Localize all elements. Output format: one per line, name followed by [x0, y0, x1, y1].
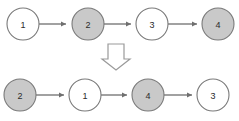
node-label: 3 — [210, 91, 215, 101]
node-before-3[interactable]: 4 — [202, 8, 234, 40]
node-before-1[interactable]: 2 — [72, 8, 104, 40]
row-after: 2 1 4 3 — [4, 79, 229, 111]
node-label: 1 — [82, 91, 87, 101]
edge-arrowhead-icon — [122, 92, 127, 97]
node-label: 4 — [145, 91, 150, 101]
edge-after-2-1 — [36, 92, 64, 97]
node-before-0[interactable]: 1 — [7, 8, 39, 40]
edge-arrowhead-icon — [187, 92, 192, 97]
node-after-2[interactable]: 4 — [132, 79, 164, 111]
edge-before-1-2 — [39, 21, 66, 26]
edge-arrowhead-icon — [61, 21, 66, 26]
node-before-2[interactable]: 3 — [136, 8, 168, 40]
edge-before-2-3 — [104, 21, 131, 26]
node-label: 2 — [17, 91, 22, 101]
edge-arrowhead-icon — [59, 92, 64, 97]
edge-before-3-4 — [168, 21, 197, 26]
node-label: 2 — [85, 20, 90, 30]
edge-after-4-3 — [164, 92, 192, 97]
row-before: 1 2 3 4 — [7, 8, 234, 40]
diagram-canvas: 1 2 3 4 — [0, 0, 239, 121]
node-after-1[interactable]: 1 — [69, 79, 101, 111]
node-label: 3 — [149, 20, 154, 30]
transform-arrow — [102, 44, 130, 70]
node-after-0[interactable]: 2 — [4, 79, 36, 111]
edge-after-1-4 — [101, 92, 127, 97]
edge-arrowhead-icon — [192, 21, 197, 26]
swap-pairs-diagram: 1 2 3 4 — [0, 0, 239, 121]
arrow-down-icon — [102, 44, 130, 70]
edge-arrowhead-icon — [126, 21, 131, 26]
node-label: 1 — [20, 20, 25, 30]
node-after-3[interactable]: 3 — [197, 79, 229, 111]
node-label: 4 — [215, 20, 220, 30]
